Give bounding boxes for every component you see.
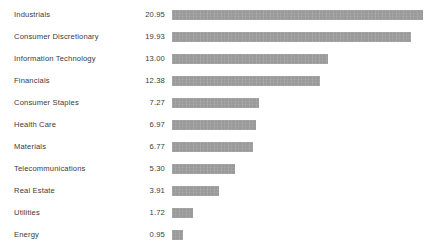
category-label: Information Technology — [14, 48, 96, 70]
category-label: Real Estate — [14, 180, 55, 202]
category-label: Consumer Staples — [14, 92, 79, 114]
chart-row: Consumer Staples7.27 — [0, 92, 433, 114]
value-label: 20.95 — [100, 4, 165, 26]
bar — [172, 54, 328, 64]
sector-weights-bar-chart: Industrials20.95Consumer Discretionary19… — [0, 0, 433, 241]
value-label: 19.93 — [100, 26, 165, 48]
value-label: 1.72 — [100, 202, 165, 224]
chart-row: Health Care6.97 — [0, 114, 433, 136]
chart-row: Financials12.38 — [0, 70, 433, 92]
bar-track — [172, 164, 235, 174]
bar — [172, 10, 423, 20]
category-label: Consumer Discretionary — [14, 26, 99, 48]
value-label: 5.30 — [100, 158, 165, 180]
bar — [172, 186, 219, 196]
category-label: Utilities — [14, 202, 40, 224]
category-label: Industrials — [14, 4, 50, 26]
bar-track — [172, 186, 219, 196]
value-label: 7.27 — [100, 92, 165, 114]
bar-track — [172, 10, 423, 20]
bar-track — [172, 120, 256, 130]
value-label: 6.97 — [100, 114, 165, 136]
bar — [172, 208, 193, 218]
bar-track — [172, 208, 193, 218]
value-label: 13.00 — [100, 48, 165, 70]
category-label: Telecommunications — [14, 158, 86, 180]
chart-row: Materials6.77 — [0, 136, 433, 158]
bar — [172, 98, 259, 108]
bar-track — [172, 32, 411, 42]
chart-row: Industrials20.95 — [0, 4, 433, 26]
value-label: 6.77 — [100, 136, 165, 158]
bar — [172, 230, 183, 240]
category-label: Health Care — [14, 114, 56, 136]
chart-row: Energy0.95 — [0, 224, 433, 241]
bar-track — [172, 142, 253, 152]
bar — [172, 32, 411, 42]
bar — [172, 142, 253, 152]
category-label: Energy — [14, 224, 39, 241]
chart-row: Consumer Discretionary19.93 — [0, 26, 433, 48]
value-label: 3.91 — [100, 180, 165, 202]
bar-track — [172, 230, 183, 240]
value-label: 12.38 — [100, 70, 165, 92]
value-label: 0.95 — [100, 224, 165, 241]
chart-row: Telecommunications5.30 — [0, 158, 433, 180]
bar — [172, 164, 235, 174]
bar-track — [172, 76, 320, 86]
chart-row: Real Estate3.91 — [0, 180, 433, 202]
chart-row: Information Technology13.00 — [0, 48, 433, 70]
bar — [172, 120, 256, 130]
bar-track — [172, 54, 328, 64]
bar — [172, 76, 320, 86]
category-label: Materials — [14, 136, 46, 158]
bar-track — [172, 98, 259, 108]
category-label: Financials — [14, 70, 50, 92]
chart-row: Utilities1.72 — [0, 202, 433, 224]
